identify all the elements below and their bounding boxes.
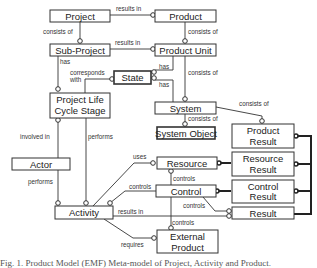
entity-label-line2: Product bbox=[171, 242, 204, 253]
circle-systemobject-top bbox=[183, 122, 188, 127]
circle-system-top bbox=[183, 97, 188, 102]
entity-label: System bbox=[170, 103, 202, 114]
rel-unit-consists-of: consists of bbox=[188, 69, 218, 76]
circle-activity-3 bbox=[108, 201, 113, 206]
entity-label-line1: Project Life bbox=[56, 94, 104, 105]
entity-product[interactable]: Product bbox=[155, 10, 216, 22]
rel-corresponds-with: with bbox=[69, 76, 82, 83]
circle-activity-2 bbox=[84, 201, 89, 206]
circle-productresult-top bbox=[260, 119, 265, 124]
rel-activity-results-in: results in bbox=[118, 208, 144, 215]
entity-label-line2: Result bbox=[250, 164, 277, 175]
entity-control[interactable]: Control bbox=[156, 185, 216, 197]
entity-external-product[interactable]: External Product bbox=[157, 230, 218, 253]
rel-involved-in: involved in bbox=[20, 133, 50, 140]
rel-control-controls-result: controls bbox=[183, 202, 205, 209]
entity-label: Result bbox=[250, 208, 277, 219]
entity-project-life-cycle-stage[interactable]: Project Life Cycle Stage bbox=[50, 93, 110, 118]
entity-sub-project[interactable]: Sub-Project bbox=[50, 44, 110, 56]
entity-label-line1: External bbox=[170, 231, 205, 242]
entity-resource-result[interactable]: Resource Result bbox=[232, 152, 294, 176]
dot-resource-right bbox=[217, 161, 221, 165]
entity-label-line1: Resource bbox=[243, 153, 284, 164]
circle-activity-1 bbox=[56, 201, 61, 206]
entity-label: Product Unit bbox=[159, 45, 212, 56]
circle-result-2 bbox=[227, 214, 232, 219]
entity-label-line2: Result bbox=[250, 191, 277, 202]
rel-resource-controls: controls bbox=[173, 175, 195, 182]
rel-plcs-performs: performs bbox=[88, 133, 113, 141]
entity-label-line1: Control bbox=[248, 181, 279, 192]
entity-system[interactable]: System bbox=[155, 102, 216, 114]
circle-external-left bbox=[152, 236, 157, 241]
dot-productresult-right bbox=[294, 134, 298, 138]
entity-label: Resource bbox=[167, 158, 208, 169]
entity-activity[interactable]: Activity bbox=[55, 206, 113, 219]
entity-result[interactable]: Result bbox=[232, 207, 294, 219]
rel-control-controls-external: controls bbox=[172, 219, 194, 226]
rel-unit-has-2: has bbox=[159, 81, 169, 88]
entity-actor[interactable]: Actor bbox=[12, 158, 70, 170]
rel-uses: uses bbox=[133, 153, 146, 160]
line-plcs-state bbox=[85, 79, 111, 93]
dot-resourceresult-right bbox=[294, 162, 298, 166]
rel-project-results-in: results in bbox=[116, 5, 142, 12]
line-system-productresult bbox=[216, 107, 262, 121]
circle-result-1 bbox=[227, 209, 232, 214]
entity-label: Project bbox=[65, 11, 95, 22]
entity-label: Product bbox=[169, 11, 202, 22]
dot-controlresult-right bbox=[294, 189, 298, 193]
entity-label-line2: Result bbox=[250, 136, 277, 147]
entity-label: State bbox=[121, 72, 143, 83]
entity-label: Control bbox=[171, 186, 202, 197]
circle-unit-top bbox=[183, 39, 188, 44]
circle-resource-left bbox=[151, 161, 156, 166]
circle-state-right-1 bbox=[152, 70, 157, 75]
circle-state-right-2 bbox=[152, 76, 157, 81]
entity-product-unit[interactable]: Product Unit bbox=[155, 44, 216, 56]
rel-unit-has-1: has bbox=[159, 63, 169, 70]
circle-plcs-top bbox=[56, 87, 61, 92]
rel-actor-performs: performs bbox=[28, 178, 53, 186]
figure-caption: Fig. 1. Product Model (EMF) Meta-model o… bbox=[0, 258, 317, 268]
rel-subproject-results-in: results in bbox=[115, 39, 141, 46]
entity-control-result[interactable]: Control Result bbox=[232, 180, 294, 203]
entity-label: Actor bbox=[30, 159, 52, 170]
entity-resource[interactable]: Resource bbox=[157, 157, 217, 169]
rel-requires: requires bbox=[121, 241, 144, 249]
rel-activity-controls: controls bbox=[129, 183, 151, 190]
rel-product-consists-of: consists of bbox=[188, 28, 218, 35]
entity-label: Sub-Project bbox=[55, 45, 105, 56]
line-control-result bbox=[203, 197, 229, 211]
rel-system-consists-of-object: consists of bbox=[188, 115, 218, 122]
entity-label-line1: Product bbox=[247, 125, 280, 136]
entity-project[interactable]: Project bbox=[50, 10, 110, 22]
line-activity-external bbox=[104, 219, 154, 238]
entity-system-object[interactable]: System Object bbox=[155, 127, 217, 139]
entity-label: System Object bbox=[155, 128, 217, 139]
line-results-generalization bbox=[294, 136, 311, 214]
rel-subproject-has: has bbox=[60, 58, 70, 65]
rel-project-consists-of: consists of bbox=[43, 28, 73, 35]
entity-product-result[interactable]: Product Result bbox=[232, 124, 294, 148]
line-activity-control bbox=[110, 191, 156, 203]
circle-subproject-top bbox=[78, 39, 83, 44]
entity-label-line2: Cycle Stage bbox=[54, 105, 105, 116]
entity-state[interactable]: State bbox=[114, 71, 151, 84]
rel-system-consists-of-result: consists of bbox=[239, 100, 269, 107]
entity-label: Activity bbox=[69, 207, 99, 218]
